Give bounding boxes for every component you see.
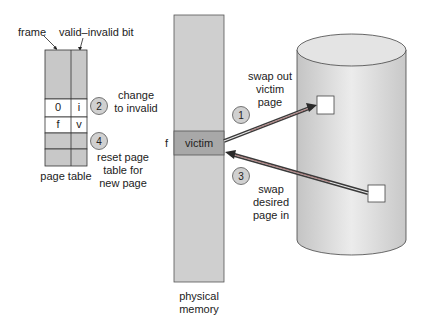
page-table-bit-cell: v <box>71 118 87 131</box>
backing-store-disk <box>297 34 406 255</box>
victim-label: victim <box>174 137 224 150</box>
step-3-number: 3 <box>233 170 249 183</box>
frame-f-marker: f <box>165 137 168 150</box>
step-2-number: 2 <box>91 100 107 113</box>
step-3-text: swap desired page in <box>246 183 296 222</box>
page-table-frame-cell: 0 <box>45 101 71 114</box>
step-1-number: 1 <box>233 109 249 122</box>
step-4-text: reset page table for new page <box>92 151 154 190</box>
step-4-number: 4 <box>91 135 107 148</box>
valid-invalid-bit-label: valid–invalid bit <box>59 26 134 39</box>
frame-label: frame <box>18 26 46 39</box>
desired-page-slot <box>368 185 385 202</box>
step-2-text: change to invalid <box>108 89 164 115</box>
page-table-frame-cell: f <box>45 118 71 131</box>
page-table-bit-cell: i <box>71 101 87 114</box>
physical-memory-caption: physical memory <box>170 290 228 316</box>
victim-page-slot <box>317 96 334 114</box>
diagram-canvas <box>0 0 431 329</box>
step-1-text: swap out victim page <box>242 70 298 109</box>
page-table-caption: page table <box>40 170 92 183</box>
